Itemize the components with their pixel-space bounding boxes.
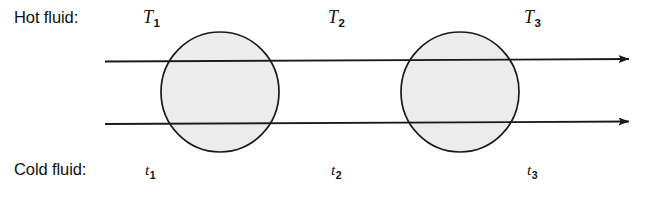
cold-temp-3-subscript: 3 (532, 169, 538, 181)
cold-temp-2-symbol: t (331, 161, 335, 178)
hot-temperature-label-3: T3 (524, 7, 540, 28)
diagram-canvas (0, 0, 648, 202)
cold-temp-1-subscript: 1 (150, 169, 156, 181)
hot-temp-1-subscript: 1 (154, 17, 160, 29)
hot-temp-2-symbol: T (328, 7, 338, 27)
hot-temp-3-subscript: 3 (535, 17, 541, 29)
heat-exchanger-2 (401, 32, 519, 152)
heat-exchanger-1 (161, 32, 279, 152)
hot-temperature-label-2: T2 (328, 7, 344, 28)
cold-temperature-label-1: t1 (145, 161, 155, 179)
cold-temp-2-subscript: 2 (336, 169, 342, 181)
hot-temp-1-symbol: T (143, 7, 153, 27)
cold-fluid-label: Cold fluid: (14, 160, 86, 179)
cold-temp-1-symbol: t (145, 161, 149, 178)
heat-exchanger-diagram: Hot fluid: Cold fluid: T1 T2 T3 t1 t2 t3 (0, 0, 648, 202)
hot-fluid-label: Hot fluid: (14, 8, 78, 27)
hot-temperature-label-1: T1 (143, 7, 159, 28)
cold-temperature-label-3: t3 (527, 161, 537, 179)
cold-temperature-label-2: t2 (331, 161, 341, 179)
cold-temp-3-symbol: t (527, 161, 531, 178)
hot-temp-3-symbol: T (524, 7, 534, 27)
hot-temp-2-subscript: 2 (339, 17, 345, 29)
